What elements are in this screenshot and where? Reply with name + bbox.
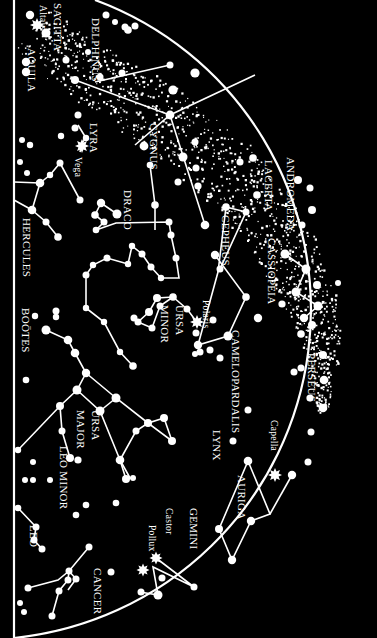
milky-way-speck <box>53 59 55 61</box>
milky-way-speck <box>258 171 260 173</box>
milky-way-speck <box>308 281 309 282</box>
milky-way-speck <box>326 384 328 386</box>
milky-way-speck <box>79 43 81 45</box>
milky-way-speck <box>300 299 301 300</box>
milky-way-speck <box>318 332 320 334</box>
milky-way-speck <box>206 200 208 202</box>
milky-way-speck <box>56 78 58 80</box>
star <box>305 459 312 466</box>
milky-way-speck <box>115 55 117 57</box>
star <box>22 477 28 483</box>
milky-way-speck <box>88 60 90 62</box>
milky-way-speck <box>335 294 337 296</box>
milky-way-speck <box>332 358 334 360</box>
milky-way-speck <box>224 138 226 140</box>
milky-way-speck <box>291 276 293 278</box>
milky-way-speck <box>325 302 326 303</box>
milky-way-speck <box>257 159 259 161</box>
milky-way-speck <box>306 330 307 331</box>
milky-way-speck <box>320 276 322 278</box>
milky-way-speck <box>332 306 334 308</box>
milky-way-speck <box>335 299 336 300</box>
milky-way-speck <box>327 348 329 350</box>
milky-way-speck <box>228 210 230 212</box>
milky-way-speck <box>47 58 48 59</box>
milky-way-speck <box>145 122 146 123</box>
milky-way-speck <box>326 362 327 363</box>
milky-way-speck <box>229 178 231 180</box>
milky-way-speck <box>103 101 105 103</box>
milky-way-speck <box>321 395 323 397</box>
milky-way-speck <box>254 252 255 253</box>
milky-way-speck <box>245 219 247 221</box>
milky-way-speck <box>322 276 324 278</box>
star <box>148 264 155 271</box>
star <box>65 577 72 584</box>
milky-way-speck <box>142 81 144 83</box>
milky-way-speck <box>110 87 112 89</box>
milky-way-speck <box>321 322 323 324</box>
star <box>299 222 306 229</box>
milky-way-speck <box>55 67 56 68</box>
milky-way-speck <box>297 306 299 308</box>
star <box>166 111 175 120</box>
milky-way-speck <box>183 179 185 181</box>
milky-way-speck <box>98 103 99 104</box>
milky-way-speck <box>106 103 108 105</box>
milky-way-speck <box>261 227 263 229</box>
milky-way-speck <box>135 95 137 97</box>
milky-way-speck <box>327 389 329 391</box>
milky-way-speck <box>273 220 275 222</box>
milky-way-speck <box>337 363 339 365</box>
star <box>117 349 123 355</box>
milky-way-speck <box>254 175 255 176</box>
milky-way-speck <box>288 302 290 304</box>
milky-way-speck <box>286 232 288 234</box>
milky-way-speck <box>86 55 87 56</box>
milky-way-speck <box>305 336 307 338</box>
milky-way-speck <box>327 291 328 292</box>
star <box>245 407 252 414</box>
milky-way-speck <box>119 64 121 66</box>
milky-way-speck <box>311 261 313 263</box>
milky-way-speck <box>230 200 232 202</box>
milky-way-speck <box>72 68 73 69</box>
milky-way-speck <box>120 88 122 90</box>
milky-way-speck <box>223 151 225 153</box>
milky-way-speck <box>69 34 70 35</box>
milky-way-speck <box>135 125 137 127</box>
milky-way-speck <box>234 166 236 168</box>
milky-way-speck <box>286 277 288 279</box>
milky-way-speck <box>322 296 324 298</box>
milky-way-speck <box>168 156 169 157</box>
milky-way-speck <box>123 64 125 66</box>
milky-way-speck <box>181 117 183 119</box>
milky-way-speck <box>143 126 145 128</box>
milky-way-speck <box>290 312 292 314</box>
milky-way-speck <box>70 49 72 51</box>
milky-way-speck <box>337 343 338 344</box>
milky-way-speck <box>133 92 134 93</box>
star <box>42 326 51 335</box>
milky-way-speck <box>280 292 282 294</box>
milky-way-speck <box>174 145 176 147</box>
star <box>159 575 166 582</box>
milky-way-speck <box>292 309 294 311</box>
milky-way-speck <box>334 355 336 357</box>
milky-way-speck <box>218 190 220 192</box>
milky-way-speck <box>286 245 288 247</box>
star <box>17 159 23 165</box>
milky-way-speck <box>227 169 229 171</box>
milky-way-speck <box>130 88 132 90</box>
milky-way-speck <box>153 96 155 98</box>
milky-way-speck <box>46 39 47 40</box>
milky-way-speck <box>304 323 305 324</box>
milky-way-speck <box>289 278 291 280</box>
milky-way-speck <box>197 157 199 159</box>
milky-way-speck <box>241 143 243 145</box>
milky-way-speck <box>124 95 126 97</box>
milky-way-speck <box>240 152 242 154</box>
star <box>291 369 298 376</box>
milky-way-speck <box>266 234 268 236</box>
milky-way-speck <box>121 131 123 133</box>
